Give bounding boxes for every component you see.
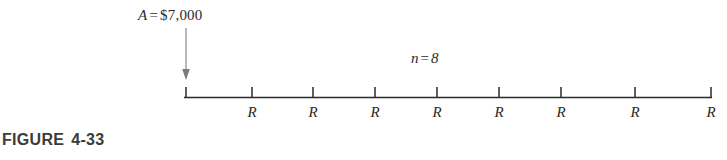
outflow-label-6: R (556, 104, 565, 121)
outflow-label-2: R (308, 104, 317, 121)
figure-caption-word: FIGURE (2, 131, 64, 148)
outflow-label-7: R (630, 104, 639, 121)
outflow-label-4: R (432, 104, 441, 121)
figure-caption-number: 4-33 (64, 131, 104, 148)
cash-flow-diagram: A=$7,000 n=8 R R R R R R R R (0, 0, 727, 160)
inflow-arrow-icon (182, 28, 190, 80)
timeline-ticks (186, 87, 711, 97)
timeline-graphic (0, 0, 727, 130)
figure-caption: FIGURE4-33 (2, 130, 104, 150)
outflow-label-5: R (494, 104, 503, 121)
outflow-label-1: R (247, 104, 256, 121)
outflow-label-8: R (706, 104, 715, 121)
outflow-label-3: R (370, 104, 379, 121)
